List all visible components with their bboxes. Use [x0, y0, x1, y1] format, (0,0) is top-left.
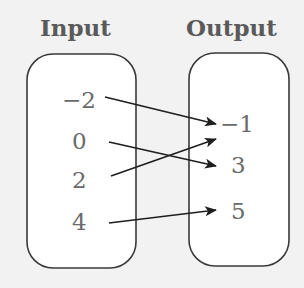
output-value: 3 [231, 154, 246, 177]
output-value: −1 [220, 113, 254, 136]
mapping-diagram [0, 0, 304, 288]
input-value: 4 [72, 211, 87, 234]
input-value: 0 [72, 130, 87, 153]
output-value: 5 [231, 200, 246, 223]
input-value: 2 [72, 169, 87, 192]
input-value: −2 [62, 89, 96, 112]
